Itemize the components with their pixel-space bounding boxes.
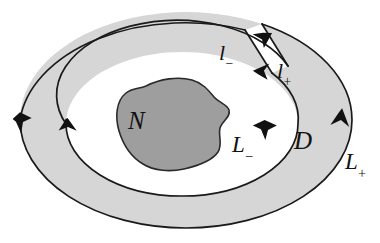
subscript-plus: +	[283, 74, 290, 89]
subscript-plus: +	[358, 165, 366, 181]
arrowhead-inner-right-down	[253, 120, 278, 141]
label-inner-boundary-L-minus: L−	[232, 133, 253, 160]
label-domain-D: D	[294, 128, 312, 153]
label-cut-l-plus: l+	[277, 60, 291, 86]
figure-container: N D L− L+ l− l+	[0, 0, 380, 243]
label-outer-boundary-L-plus: L+	[345, 150, 366, 177]
label-blob-N: N	[128, 108, 145, 133]
label-cut-l-minus: l−	[219, 42, 233, 68]
subscript-minus: −	[245, 148, 253, 164]
annulus-diagram-svg	[0, 0, 380, 243]
subscript-minus: −	[225, 56, 232, 71]
